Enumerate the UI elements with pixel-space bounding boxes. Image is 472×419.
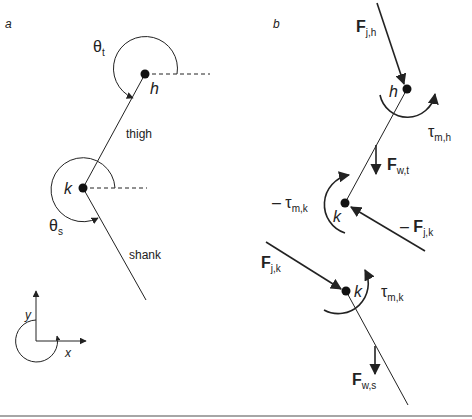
knee-joint-dot [79, 184, 88, 193]
hip-label-fbd: h [389, 83, 398, 100]
F-jh-label: Fj,h [356, 18, 376, 38]
F-ws-label: Fw,s [352, 371, 376, 391]
panel-a: a θt h thigh k θs shank y x [5, 17, 210, 362]
theta-s-label: θs [49, 217, 63, 237]
hip-label: h [150, 80, 159, 97]
thigh-label: thigh [126, 127, 152, 141]
hip-joint-force-arrow [377, 3, 404, 84]
x-axis-label: x [64, 346, 72, 360]
shank-label: shank [129, 248, 162, 262]
biomechanics-diagram: a θt h thigh k θs shank y x b [0, 0, 472, 419]
neg-tau-mk-label: – τm,k [272, 194, 309, 214]
y-axis-label: y [24, 308, 32, 322]
panel-a-label: a [5, 17, 12, 31]
knee-label: k [64, 180, 73, 197]
tau-mh-label: τm,h [428, 123, 451, 143]
neg-F-jk-label: – Fj,k [400, 218, 434, 238]
F-wt-label: Fw,t [387, 156, 409, 176]
panel-b: b Fj,h h τm,h Fw,t – τm,k k – Fj,k Fj,k … [261, 3, 451, 405]
coordinate-axes: y x [16, 291, 86, 362]
knee-lower-label: k [354, 283, 363, 300]
shank-segment [83, 188, 146, 300]
knee-joint-dot-thigh [341, 199, 350, 208]
F-jk-label: Fj,k [261, 254, 282, 274]
knee-upper-label: k [333, 208, 342, 225]
knee-joint-dot-shank [342, 287, 351, 296]
hip-joint-dot [141, 70, 150, 79]
panel-b-label: b [273, 17, 280, 31]
theta-t-label: θt [93, 38, 105, 58]
hip-joint-dot-fbd [403, 85, 412, 94]
tau-mk-label: τm,k [381, 283, 404, 303]
theta-t-arc [113, 37, 177, 98]
